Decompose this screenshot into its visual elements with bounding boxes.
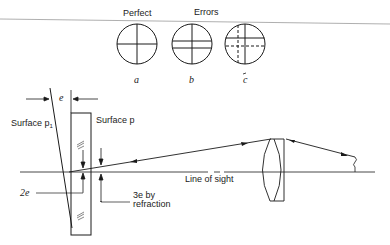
two-e-label: 2e [20,187,30,198]
objective-lens [263,139,285,201]
light-source-squiggle [354,157,357,172]
reticle-b-label: b [189,74,194,85]
two-e-arrows [81,150,85,192]
perfect-label: Perfect [123,8,152,18]
ray-arrow-left [130,159,137,163]
line-of-sight-label: Line of sight [185,174,234,184]
errors-label: Errors [194,7,219,17]
reticle-c-label: c [243,74,248,85]
e-label: e [59,92,64,103]
surface-p1-label: Surface p1 [11,118,54,129]
reticle-c [225,24,265,64]
three-e-leader [101,201,130,202]
three-e-arrows [99,148,103,202]
surface-p1-line [50,88,72,228]
surface-p-label: Surface p [96,115,135,125]
three-e-label-line2: refraction [133,199,171,209]
top-rule [0,19,390,24]
glass-plate [71,113,91,235]
reticle-a [117,24,157,64]
reticle-b [172,24,212,64]
incident-arrow-near [289,140,295,143]
reticle-a-label: a [134,74,139,85]
incident-arrow-far [341,152,348,156]
reflected-ray [69,139,271,172]
optical-alignment-diagram: Perfect Errors a b c e Surface p1 Su [0,0,390,245]
two-e-leader [36,192,83,193]
